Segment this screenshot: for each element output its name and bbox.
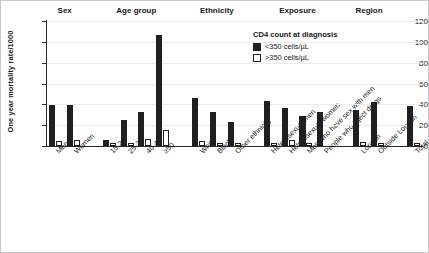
group-header-sex: Sex [58,6,72,15]
gridline [47,84,423,85]
bar-below-350 [371,102,377,146]
bar-below-350 [353,110,359,146]
bar-below-350 [317,112,323,146]
gridline [47,125,423,126]
bar-below-350 [264,101,270,146]
plot-area [47,21,423,146]
bar-below-350 [282,108,288,146]
chart-figure: One year mortality rate/1000 02040608010… [0,0,429,253]
y-axis-tick-mark [42,21,46,22]
bar-below-350 [407,106,413,146]
legend-label: <350 cells/µL [265,42,309,51]
y-axis-tick-mark [42,104,46,105]
bar-below-350 [156,35,162,146]
legend-label: >350 cells/µL [265,53,309,62]
bar-below-350 [49,105,55,146]
bar-above-350 [378,143,384,146]
legend-entry: <350 cells/µL [253,42,337,51]
y-axis-title: One year mortality rate/1000 [6,19,15,144]
group-header-exposure: Exposure [279,6,315,15]
bar-above-350 [235,143,241,146]
bar-above-350 [199,141,205,146]
bar-above-350 [360,142,366,146]
bar-below-350 [210,112,216,146]
bar-below-350 [121,120,127,146]
bar-below-350 [299,116,305,146]
y-axis-tick-mark [42,146,46,147]
bar-above-350 [110,143,116,146]
legend-swatch-icon [253,43,261,51]
gridline [47,104,423,105]
group-header-age-group: Age group [116,6,156,15]
bar-below-350 [138,112,144,146]
y-axis-tick-mark [42,84,46,85]
bar-above-350 [414,143,420,146]
group-header-ethnicity: Ethnicity [200,6,234,15]
legend-title: CD4 count at diagnosis [253,30,337,39]
y-axis-tick-mark [42,42,46,43]
legend-entry: >350 cells/µL [253,53,337,62]
bar-above-350 [271,143,277,146]
gridline [47,42,423,43]
bar-above-350 [145,139,151,146]
bar-above-350 [163,130,169,146]
group-header-region: Region [355,6,382,15]
gridline [47,63,423,64]
bar-below-350 [67,105,73,146]
bar-below-350 [192,98,198,146]
bar-below-350 [103,140,109,146]
chart-legend: CD4 count at diagnosis <350 cells/µL>350… [253,30,337,64]
bar-below-350 [228,122,234,146]
y-axis-tick-mark [42,125,46,126]
bar-above-350 [74,140,80,146]
gridline [47,21,423,22]
bar-above-350 [217,143,223,146]
y-axis-tick-mark [42,63,46,64]
bar-above-350 [56,141,62,146]
bar-above-350 [306,143,312,146]
legend-swatch-icon [253,54,261,62]
bar-above-350 [289,140,295,146]
bar-above-350 [128,143,134,146]
legend-entries: <350 cells/µL>350 cells/µL [253,42,337,62]
